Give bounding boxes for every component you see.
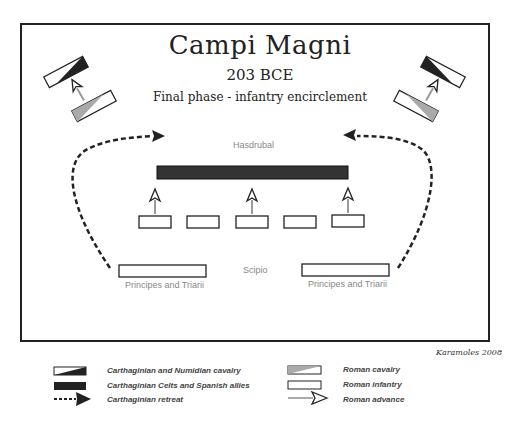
roman-infantry-block (236, 216, 268, 228)
roman-cavalry-right (394, 90, 438, 121)
carthaginian-cavalry-right (421, 56, 465, 87)
legend-label: Carthaginian Celts and Spanish allies (107, 381, 250, 390)
credit: Karamoles 2008 (436, 348, 502, 357)
scipio-label: Scipio (243, 265, 268, 275)
legend-label: Roman advance (343, 395, 404, 404)
map-subtitle: Final phase - infantry encirclement (150, 90, 370, 104)
legend-label: Carthaginian and Numidian cavalry (107, 366, 241, 375)
retreat-arc-right (357, 136, 432, 268)
roman-infantry-block (139, 216, 171, 228)
roman-infantry-block (332, 215, 364, 227)
carthaginian-infantry-icon (54, 382, 86, 390)
map-year: 203 BCE (150, 66, 370, 84)
advance-arrow-icon (343, 188, 353, 213)
advance-arrow-icon (288, 392, 327, 404)
advance-arrow-icon (247, 189, 257, 214)
retreat-arrowhead-left (152, 130, 165, 142)
principes-block-left (119, 265, 206, 277)
advance-arrow-icon (150, 189, 160, 214)
carthaginian-infantry-line (157, 166, 348, 179)
legend-label: Roman cavalry (343, 365, 400, 374)
carthaginian-cavalry-left (44, 56, 88, 87)
roman-cavalry-icon (288, 366, 321, 374)
roman-infantry-block (284, 216, 316, 228)
advance-arrow-icon (422, 77, 443, 103)
carthaginian-cavalry-icon (54, 367, 86, 375)
advance-arrow-icon (68, 77, 89, 103)
retreat-arc-left (73, 136, 152, 268)
roman-infantry-block (187, 216, 219, 228)
roman-cavalry-left (72, 90, 116, 121)
principes-label-right: Principes and Triarii (308, 279, 387, 289)
map-title: Campi Magni (150, 30, 370, 60)
hasdrubal-label: Hasdrubal (233, 140, 274, 150)
roman-infantry-icon (288, 381, 321, 389)
retreat-arrowhead-right (343, 129, 356, 141)
legend-label: Roman infantry (343, 380, 402, 389)
retreat-arrow-icon (54, 392, 91, 406)
legend-label: Carthaginian retreat (107, 395, 183, 404)
principes-block-right (302, 264, 389, 276)
principes-label-left: Principes and Triarii (125, 280, 204, 290)
